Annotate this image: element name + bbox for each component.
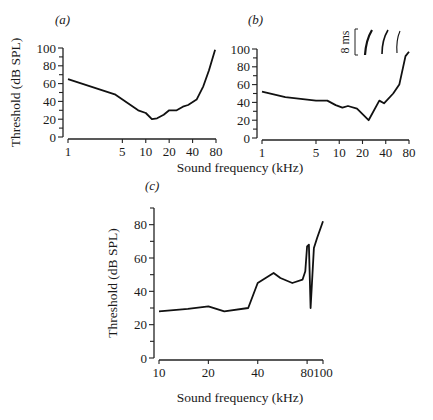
panel-c: 02040608010204080100(c)Threshold (dB SPL… [105,178,333,405]
x-tick-label: 1 [259,145,266,160]
x-axis-label: Sound frequency (kHz) [177,390,304,405]
y-tick-label: 20 [237,113,250,128]
x-tick-label: 40 [186,144,199,159]
y-tick-label: 100 [231,42,251,57]
y-tick-label: 80 [237,59,250,74]
x-tick-label: 20 [356,145,369,160]
x-tick-label: 10 [139,144,152,159]
x-tick-label: 40 [251,365,264,380]
scale-bracket [355,29,358,55]
x-tick-label: 5 [313,145,320,160]
y-tick-label: 40 [134,284,147,299]
x-tick-label: 20 [163,144,176,159]
figure: 0204060801001510204080(a)Threshold (dB S… [0,0,433,420]
threshold-curve [159,221,323,311]
y-tick-label: 80 [134,217,147,232]
y-tick-label: 100 [37,41,57,56]
x-tick-label: 20 [202,365,215,380]
panel-b: 0204060801001510204080(b)8 ms [231,12,416,160]
spike-inset: 8 ms [338,29,400,55]
y-tick-label: 0 [50,130,57,145]
x-tick-label: 80 [210,144,223,159]
y-axis-label: Threshold (dB SPL) [105,228,120,338]
x-tick-label: 80 [403,145,416,160]
y-tick-label: 40 [237,95,250,110]
y-tick-label: 60 [237,77,250,92]
y-axis-label: Threshold (dB SPL) [8,38,23,148]
x-axis-label: Sound frequency (kHz) [177,160,304,175]
y-tick-label: 0 [141,351,148,366]
y-tick-label: 80 [43,58,56,73]
spike-trace [382,30,388,54]
spike-trace [397,31,400,53]
threshold-curve [68,50,215,119]
y-tick-label: 20 [134,317,147,332]
x-tick-label: 5 [119,144,126,159]
panel-label: (a) [55,12,70,27]
x-tick-label: 40 [379,145,392,160]
inset-scale-label: 8 ms [338,30,352,53]
x-tick-label: 10 [333,145,346,160]
x-tick-label: 10 [153,365,166,380]
x-tick-label: 80 [301,365,314,380]
panel-label: (b) [248,12,263,27]
y-tick-label: 20 [43,112,56,127]
panel-label: (c) [145,178,159,193]
y-tick-label: 0 [244,131,251,146]
y-tick-label: 60 [43,76,56,91]
x-tick-label: 100 [313,365,333,380]
y-tick-label: 60 [134,251,147,266]
threshold-curve [262,52,409,121]
spike-trace [365,30,372,55]
x-tick-label: 1 [65,144,72,159]
y-tick-label: 40 [43,94,56,109]
